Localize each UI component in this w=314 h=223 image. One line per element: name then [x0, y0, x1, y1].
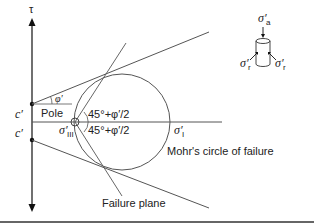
specimen-bottom [256, 64, 270, 67]
arrow-down-icon [29, 204, 36, 212]
friction-angle-label: φ′ [55, 93, 64, 104]
specimen-inset: σ′ a σ′ r σ′ r [240, 11, 286, 72]
mohr-circle-label: Mohr's circle of failure [167, 145, 274, 157]
cohesion-label-upper: c′ [15, 107, 23, 121]
phi-angle-arc [51, 97, 52, 104]
radial-stress-left-subscript: r [248, 63, 251, 72]
angle-label-lower: 45°+φ′/2 [88, 124, 129, 136]
sigma-major-subscript: I [182, 130, 184, 139]
pole-label: Pole [41, 107, 63, 119]
sigma-minor-subscript: III [67, 130, 74, 139]
specimen-top [256, 39, 270, 44]
radial-stress-right-subscript: r [283, 63, 286, 72]
tau-axis-label: τ [29, 3, 34, 15]
mohr-coulomb-diagram: τ c′ c′ φ′ Pole 45°+φ′/2 45°+φ′/2 σ′ III… [0, 0, 314, 223]
angle-label-upper: 45°+φ′/2 [88, 108, 129, 120]
axial-stress-subscript: a [266, 18, 271, 27]
tau-axis [29, 18, 36, 212]
failure-plane-label: Failure plane [102, 197, 166, 209]
cohesion-label-lower: c′ [15, 126, 23, 140]
arrow-up-icon [29, 18, 36, 26]
axial-arrow-icon [261, 34, 265, 38]
